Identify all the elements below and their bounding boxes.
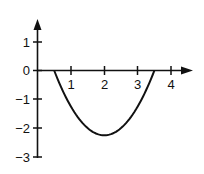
x-tick-label-1: 1: [67, 77, 74, 92]
x-tick-label-4: 4: [167, 77, 174, 92]
parabola-chart: 1 0 −1 −2 −3 1 2 3 4: [0, 0, 204, 174]
y-axis-arrow-icon: [34, 19, 42, 30]
y-tick-label-minus-2: −2: [15, 121, 30, 136]
y-tick-label-minus-3: −3: [15, 150, 30, 165]
x-axis-arrow-icon: [181, 67, 193, 75]
y-tick-label-minus-1: −1: [15, 92, 30, 107]
x-tick-label-2: 2: [101, 77, 108, 92]
y-tick-label-0: 0: [23, 63, 30, 78]
x-tick-label-3: 3: [134, 77, 141, 92]
y-tick-label-1: 1: [23, 35, 30, 50]
